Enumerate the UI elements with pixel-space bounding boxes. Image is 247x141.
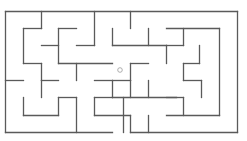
player-marker-icon <box>118 68 123 73</box>
maze <box>0 0 247 141</box>
